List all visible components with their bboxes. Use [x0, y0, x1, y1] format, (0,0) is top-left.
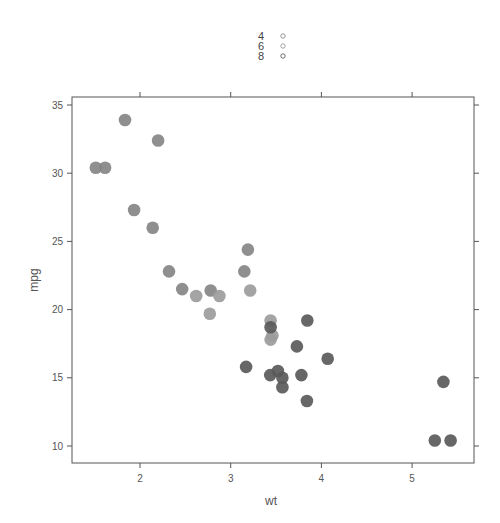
y-tick-label: 20 — [52, 304, 64, 315]
data-point-cyl-6 — [190, 290, 203, 303]
data-point-cyl-4 — [238, 265, 251, 278]
data-point-cyl-4 — [176, 283, 189, 296]
data-point-cyl-8 — [444, 434, 457, 447]
data-point-cyl-8 — [321, 352, 334, 365]
y-tick-label: 25 — [52, 236, 64, 247]
legend: 468 — [258, 30, 285, 62]
x-tick-label: 2 — [137, 473, 143, 484]
data-point-cyl-4 — [163, 265, 176, 278]
data-point-cyl-8 — [291, 340, 304, 353]
data-point-cyl-4 — [128, 204, 141, 217]
data-point-cyl-8 — [240, 361, 253, 374]
data-point-cyl-6 — [213, 290, 226, 303]
legend-marker-icon — [281, 44, 285, 48]
y-tick-label: 15 — [52, 372, 64, 383]
data-point-cyl-8 — [264, 369, 277, 382]
legend-marker-icon — [281, 34, 285, 38]
data-points — [90, 114, 457, 447]
legend-marker-icon — [281, 54, 285, 58]
x-tick-label: 3 — [228, 473, 234, 484]
data-point-cyl-8 — [295, 369, 308, 382]
plot-frame — [72, 97, 474, 463]
x-axis-title: wt — [264, 494, 278, 508]
data-point-cyl-8 — [301, 314, 314, 327]
data-point-cyl-8 — [437, 376, 450, 389]
x-tick-label: 5 — [409, 473, 415, 484]
data-point-cyl-6 — [264, 333, 277, 346]
data-point-cyl-6 — [204, 307, 217, 320]
x-tick-label: 4 — [319, 473, 325, 484]
data-point-cyl-6 — [244, 284, 257, 297]
data-point-cyl-8 — [264, 321, 277, 334]
data-point-cyl-8 — [429, 434, 442, 447]
y-tick-label: 35 — [52, 100, 64, 111]
data-point-cyl-8 — [276, 372, 289, 385]
data-point-cyl-4 — [90, 161, 103, 174]
data-point-cyl-4 — [146, 222, 159, 235]
data-point-cyl-4 — [152, 134, 165, 147]
y-tick-label: 30 — [52, 168, 64, 179]
y-axis-title: mpg — [27, 268, 41, 291]
data-point-cyl-4 — [242, 243, 255, 256]
data-point-cyl-8 — [301, 395, 314, 408]
scatter-chart: 468 2345 101520253035 wt mpg — [0, 0, 500, 523]
y-axis: 101520253035 — [52, 100, 479, 452]
data-point-cyl-4 — [119, 114, 132, 127]
y-tick-label: 10 — [52, 441, 64, 452]
legend-label: 8 — [258, 50, 264, 62]
